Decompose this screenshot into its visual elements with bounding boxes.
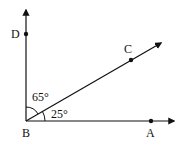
- point-d: [24, 32, 28, 36]
- label-c: C: [124, 42, 132, 56]
- ray-bc: [26, 43, 161, 121]
- angle-label-65: 65°: [32, 90, 49, 104]
- label-d: D: [11, 27, 20, 41]
- angle-label-25: 25°: [51, 107, 68, 121]
- point-a: [149, 119, 153, 123]
- label-b: B: [22, 126, 30, 140]
- angle-arc-cba: [43, 112, 46, 122]
- label-a: A: [146, 126, 155, 140]
- angle-arc-dbc: [26, 107, 38, 114]
- point-c: [129, 58, 133, 62]
- angle-diagram: D C A B 65° 25°: [0, 0, 186, 143]
